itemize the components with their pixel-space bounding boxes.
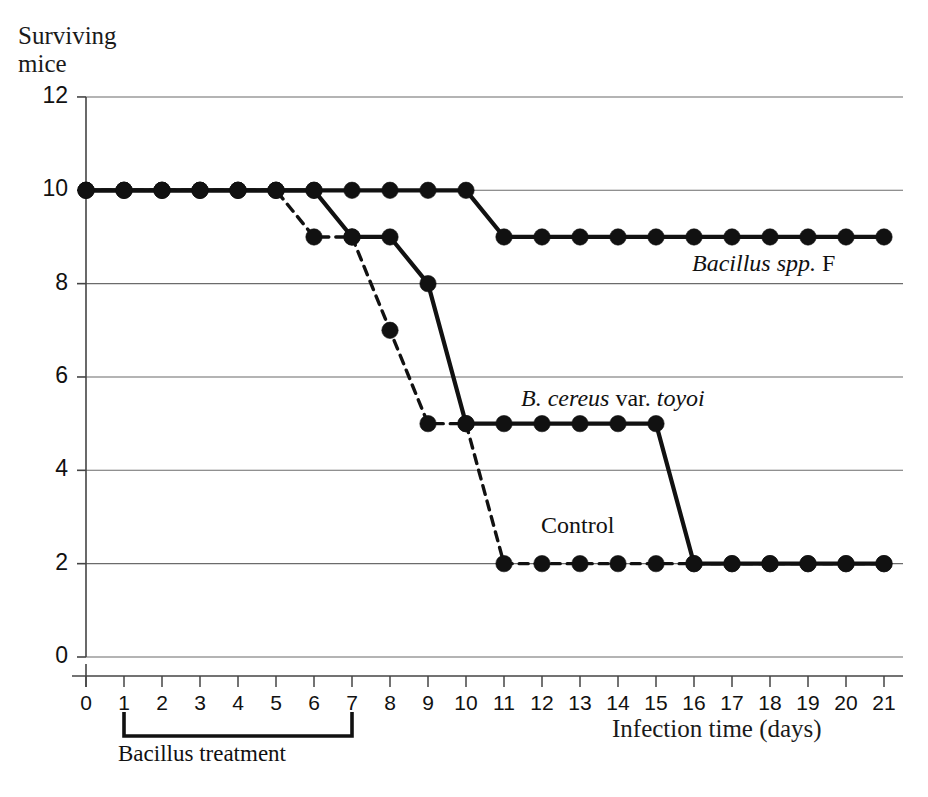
series-2-point-19 [800,555,816,571]
x-tick-label-6: 6 [299,691,329,715]
series-label-toyoi-species: B. cereus [521,385,609,411]
treatment-bracket [124,712,352,736]
series-0-point-16 [686,229,702,245]
y-tick-label-12: 12 [28,82,68,109]
series-label-bacillus-spp-f-strain: F [816,250,835,276]
x-tick-label-5: 5 [261,691,291,715]
series-label-b-cereus-var-toyoi: B. cereus var. toyoi [521,385,705,412]
series-line-0 [86,190,884,237]
y-tick-label-2: 2 [28,549,68,576]
series-2-point-3 [192,182,208,198]
y-tick-label-10: 10 [28,175,68,202]
series-1-point-9 [420,275,436,291]
series-0-point-13 [572,229,588,245]
series-label-toyoi-var: var. [609,385,656,411]
x-tick-label-3: 3 [185,691,215,715]
x-tick-label-0: 0 [71,691,101,715]
y-tick-label-4: 4 [28,455,68,482]
bracket-caption: Bacillus treatment [118,741,286,767]
series-label-toyoi-variety: toyoi [657,385,705,411]
series-label-control: Control [541,512,614,539]
series-2-point-0 [78,182,94,198]
series-1-point-15 [648,415,664,431]
y-tick-label-8: 8 [28,269,68,296]
y-tick-label-0: 0 [28,642,68,669]
series-2-point-8 [382,322,398,338]
series-2-point-14 [610,555,626,571]
series-2-point-7 [344,229,360,245]
series-2-point-10 [458,415,474,431]
series-1-point-11 [496,415,512,431]
x-tick-label-12: 12 [527,691,557,715]
series-2-point-9 [420,415,436,431]
bracket-path [124,712,352,736]
series-1-point-13 [572,415,588,431]
series-0-point-17 [724,229,740,245]
plot-area [0,0,928,797]
y-tick-marks [77,97,86,657]
series-label-bacillus-spp-f: Bacillus spp. F [692,250,835,277]
x-tick-label-14: 14 [603,691,633,715]
chart-figure: Surviving mice Infection time (days) 024… [0,0,928,797]
series-2-point-21 [876,555,892,571]
series-0-point-12 [534,229,550,245]
series-2-point-13 [572,555,588,571]
series-2-point-17 [724,555,740,571]
x-tick-label-16: 16 [679,691,709,715]
series-0-point-14 [610,229,626,245]
x-tick-label-15: 15 [641,691,671,715]
y-tick-label-6: 6 [28,362,68,389]
x-tick-label-9: 9 [413,691,443,715]
x-tick-label-1: 1 [109,691,139,715]
x-tick-label-20: 20 [831,691,861,715]
series-2-point-12 [534,555,550,571]
x-tick-label-4: 4 [223,691,253,715]
series-0-point-19 [800,229,816,245]
series-0-point-7 [344,182,360,198]
series-2-point-11 [496,555,512,571]
series-2-point-2 [154,182,170,198]
series-1-point-8 [382,229,398,245]
x-tick-label-11: 11 [489,691,519,715]
series-1-point-12 [534,415,550,431]
series-2-point-16 [686,555,702,571]
series-label-bacillus-spp-f-genus: Bacillus spp. [692,250,816,276]
series-2-point-20 [838,555,854,571]
series-1-point-6 [306,182,322,198]
series-1-point-14 [610,415,626,431]
x-tick-label-18: 18 [755,691,785,715]
series-2-point-4 [230,182,246,198]
x-tick-label-8: 8 [375,691,405,715]
series-0-point-11 [496,229,512,245]
series-2-point-15 [648,555,664,571]
series-0-point-10 [458,182,474,198]
series-2-point-5 [268,182,284,198]
x-tick-label-13: 13 [565,691,595,715]
x-tick-label-10: 10 [451,691,481,715]
series-2-point-6 [306,229,322,245]
gridlines [86,97,903,657]
series-0-point-20 [838,229,854,245]
x-tick-label-17: 17 [717,691,747,715]
series-0-point-9 [420,182,436,198]
series-2-point-1 [116,182,132,198]
series-0-point-21 [876,229,892,245]
x-tick-label-7: 7 [337,691,367,715]
x-tick-label-19: 19 [793,691,823,715]
series-0-point-8 [382,182,398,198]
x-tick-label-21: 21 [869,691,899,715]
series-0-point-18 [762,229,778,245]
series-0-point-15 [648,229,664,245]
x-tick-label-2: 2 [147,691,177,715]
series-2-point-18 [762,555,778,571]
